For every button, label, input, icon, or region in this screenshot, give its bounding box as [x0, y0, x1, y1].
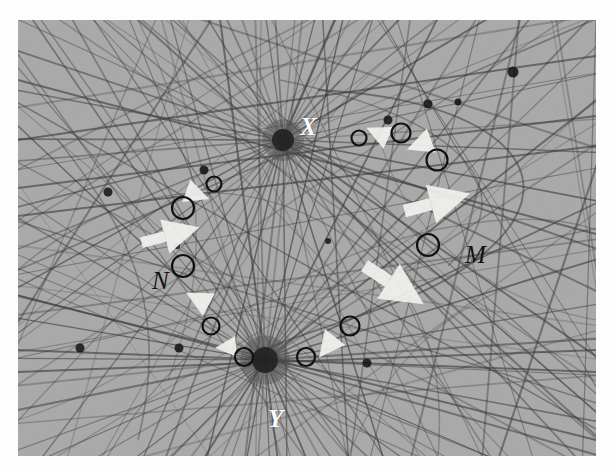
- point-label-x: X: [300, 114, 317, 139]
- figure-page: X Y M N: [0, 0, 615, 472]
- film-grain-overlay: [18, 20, 596, 456]
- point-label-n: N: [152, 268, 169, 293]
- point-label-y: Y: [268, 406, 283, 431]
- geometry-figure: X Y M N: [18, 20, 596, 456]
- figure-canvas: [18, 20, 596, 456]
- point-label-m: M: [465, 242, 486, 267]
